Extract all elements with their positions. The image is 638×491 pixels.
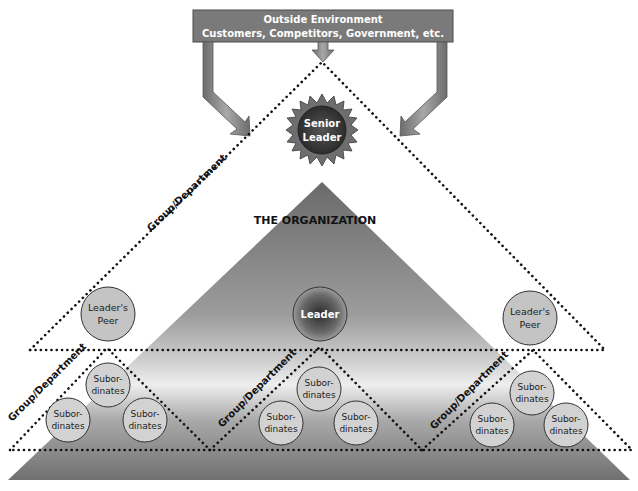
senior-leader-badge: Senior Leader <box>286 94 358 166</box>
subordinates-center-right: Subor- dinates <box>334 401 378 445</box>
svg-text:Peer: Peer <box>98 315 119 326</box>
svg-text:Subor-: Subor- <box>93 374 122 384</box>
svg-text:Subor-: Subor- <box>304 378 333 388</box>
leaders-peer-right: Leader's Peer <box>503 291 557 345</box>
organization-title: THE ORGANIZATION <box>254 214 377 227</box>
senior-leader-line1: Senior <box>304 118 340 129</box>
svg-text:Subor-: Subor- <box>130 409 159 419</box>
svg-text:dinates: dinates <box>302 390 335 400</box>
svg-text:Subor-: Subor- <box>551 414 580 424</box>
right-influence-arrow <box>400 42 447 136</box>
environment-subtitle: Customers, Competitors, Government, etc. <box>202 28 444 39</box>
subordinates-center-top: Subor- dinates <box>297 367 341 411</box>
svg-text:Subor-: Subor- <box>517 382 546 392</box>
svg-text:dinates: dinates <box>91 386 124 396</box>
subordinates-right-right: Subor- dinates <box>544 403 588 447</box>
leaders-peer-left: Leader's Peer <box>81 287 135 341</box>
svg-text:Subor-: Subor- <box>53 409 82 419</box>
svg-text:dinates: dinates <box>339 424 372 434</box>
svg-text:dinates: dinates <box>475 426 508 436</box>
svg-text:Subor-: Subor- <box>266 412 295 422</box>
leader-node: Leader <box>293 287 347 341</box>
svg-text:Leader: Leader <box>301 309 340 320</box>
svg-text:dinates: dinates <box>515 394 548 404</box>
outside-environment-box: Outside Environment Customers, Competito… <box>193 10 453 42</box>
subordinates-right-top: Subor- dinates <box>510 371 554 415</box>
senior-leader-line2: Leader <box>303 132 342 143</box>
svg-text:dinates: dinates <box>128 421 161 431</box>
subordinates-left-right: Subor- dinates <box>123 398 167 442</box>
organization-diagram: Outside Environment Customers, Competito… <box>0 0 638 491</box>
subordinates-right-left: Subor- dinates <box>470 403 514 447</box>
left-influence-arrow <box>203 42 250 136</box>
subordinates-left-left: Subor- dinates <box>46 398 90 442</box>
svg-text:Leader's: Leader's <box>88 302 128 313</box>
svg-text:dinates: dinates <box>51 421 84 431</box>
svg-text:dinates: dinates <box>549 426 582 436</box>
center-influence-arrow <box>312 42 334 62</box>
environment-title: Outside Environment <box>263 14 382 25</box>
svg-text:Leader's: Leader's <box>510 306 550 317</box>
group-label-top: Group/Department <box>145 152 229 234</box>
subordinates-left-top: Subor- dinates <box>86 363 130 407</box>
svg-text:Peer: Peer <box>520 319 541 330</box>
subordinates-center-left: Subor- dinates <box>259 401 303 445</box>
svg-text:dinates: dinates <box>264 424 297 434</box>
svg-text:Subor-: Subor- <box>341 412 370 422</box>
svg-text:Subor-: Subor- <box>477 414 506 424</box>
